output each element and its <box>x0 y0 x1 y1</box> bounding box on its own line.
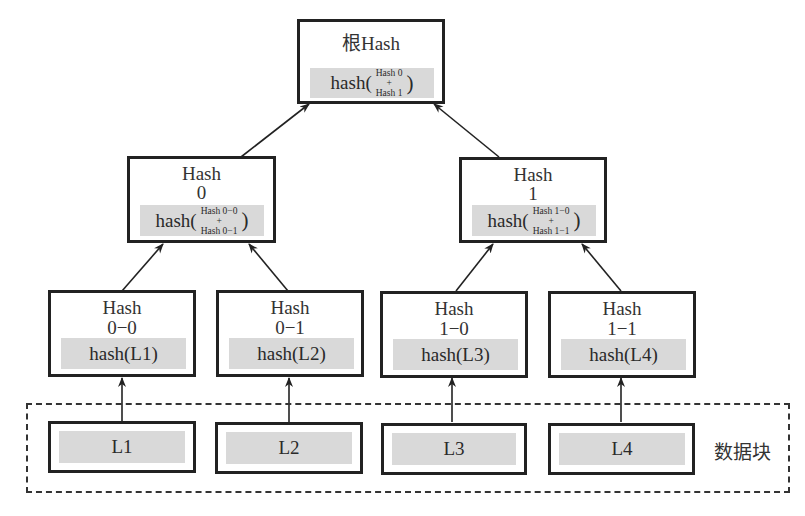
leaf-title-line1: Hash <box>383 299 525 319</box>
data-block-l4: L4 <box>548 423 695 475</box>
leaf-title-line2: 1−1 <box>551 319 693 339</box>
formula-prefix: hash( <box>331 72 372 94</box>
root-hash-formula: hash( Hash 0 + Hash 1 ) <box>310 68 434 98</box>
root-hash-node: 根Hash hash( Hash 0 + Hash 1 ) <box>297 19 445 104</box>
hash-0-title-line1: Hash <box>130 164 273 184</box>
hash-1-title-line2: 1 <box>462 184 604 204</box>
hash-1-formula: hash( Hash 1−0 + Hash 1−1 ) <box>472 205 596 236</box>
data-block-label: L1 <box>59 431 185 463</box>
hash-1-title-line1: Hash <box>462 165 604 185</box>
hash-0-title-line2: 0 <box>130 183 273 203</box>
data-block-l3: L3 <box>381 423 527 475</box>
leaf-formula: hash(L3) <box>393 339 518 370</box>
leaf-title-line1: Hash <box>51 298 193 318</box>
root-hash-title: 根Hash <box>300 34 442 54</box>
leaf-title-line1: Hash <box>551 299 693 319</box>
hash-1-node: Hash 1 hash( Hash 1−0 + Hash 1−1 ) <box>459 157 607 243</box>
edge-hash10-to-hash1 <box>456 244 493 291</box>
data-blocks-label: 数据块 <box>714 437 771 464</box>
hash-1-0-node: Hash 1−0 hash(L3) <box>380 291 528 378</box>
hash-1-1-node: Hash 1−1 hash(L4) <box>548 291 696 378</box>
leaf-title-line2: 0−0 <box>51 318 193 338</box>
edge-hash11-to-hash1 <box>582 244 621 291</box>
formula-fraction: Hash 1−0 + Hash 1−1 <box>533 206 570 236</box>
leaf-formula: hash(L2) <box>229 338 354 369</box>
data-block-l1: L1 <box>48 421 196 473</box>
leaf-title-line2: 1−0 <box>383 319 525 339</box>
formula-fraction: Hash 0 + Hash 1 <box>376 68 403 98</box>
leaf-title-line1: Hash <box>219 298 361 318</box>
edge-hash0-to-root <box>241 104 309 157</box>
data-block-label: L3 <box>392 433 516 465</box>
leaf-formula: hash(L1) <box>61 338 186 369</box>
hash-0-formula: hash( Hash 0−0 + Hash 0−1 ) <box>140 205 264 236</box>
leaf-title-line2: 0−1 <box>219 318 361 338</box>
formula-suffix: ) <box>406 71 413 96</box>
hash-0-node: Hash 0 hash( Hash 0−0 + Hash 0−1 ) <box>127 156 276 243</box>
edge-hash01-to-hash0 <box>249 244 288 291</box>
formula-fraction: Hash 0−0 + Hash 0−1 <box>201 206 238 236</box>
edge-hash1-to-root <box>434 104 499 157</box>
data-block-label: L2 <box>226 432 352 464</box>
data-block-label: L4 <box>559 433 685 465</box>
leaf-formula: hash(L4) <box>561 339 686 370</box>
hash-0-1-node: Hash 0−1 hash(L2) <box>216 290 364 377</box>
hash-0-0-node: Hash 0−0 hash(L1) <box>48 290 196 377</box>
data-block-l2: L2 <box>215 422 363 474</box>
edge-hash00-to-hash0 <box>122 244 163 291</box>
